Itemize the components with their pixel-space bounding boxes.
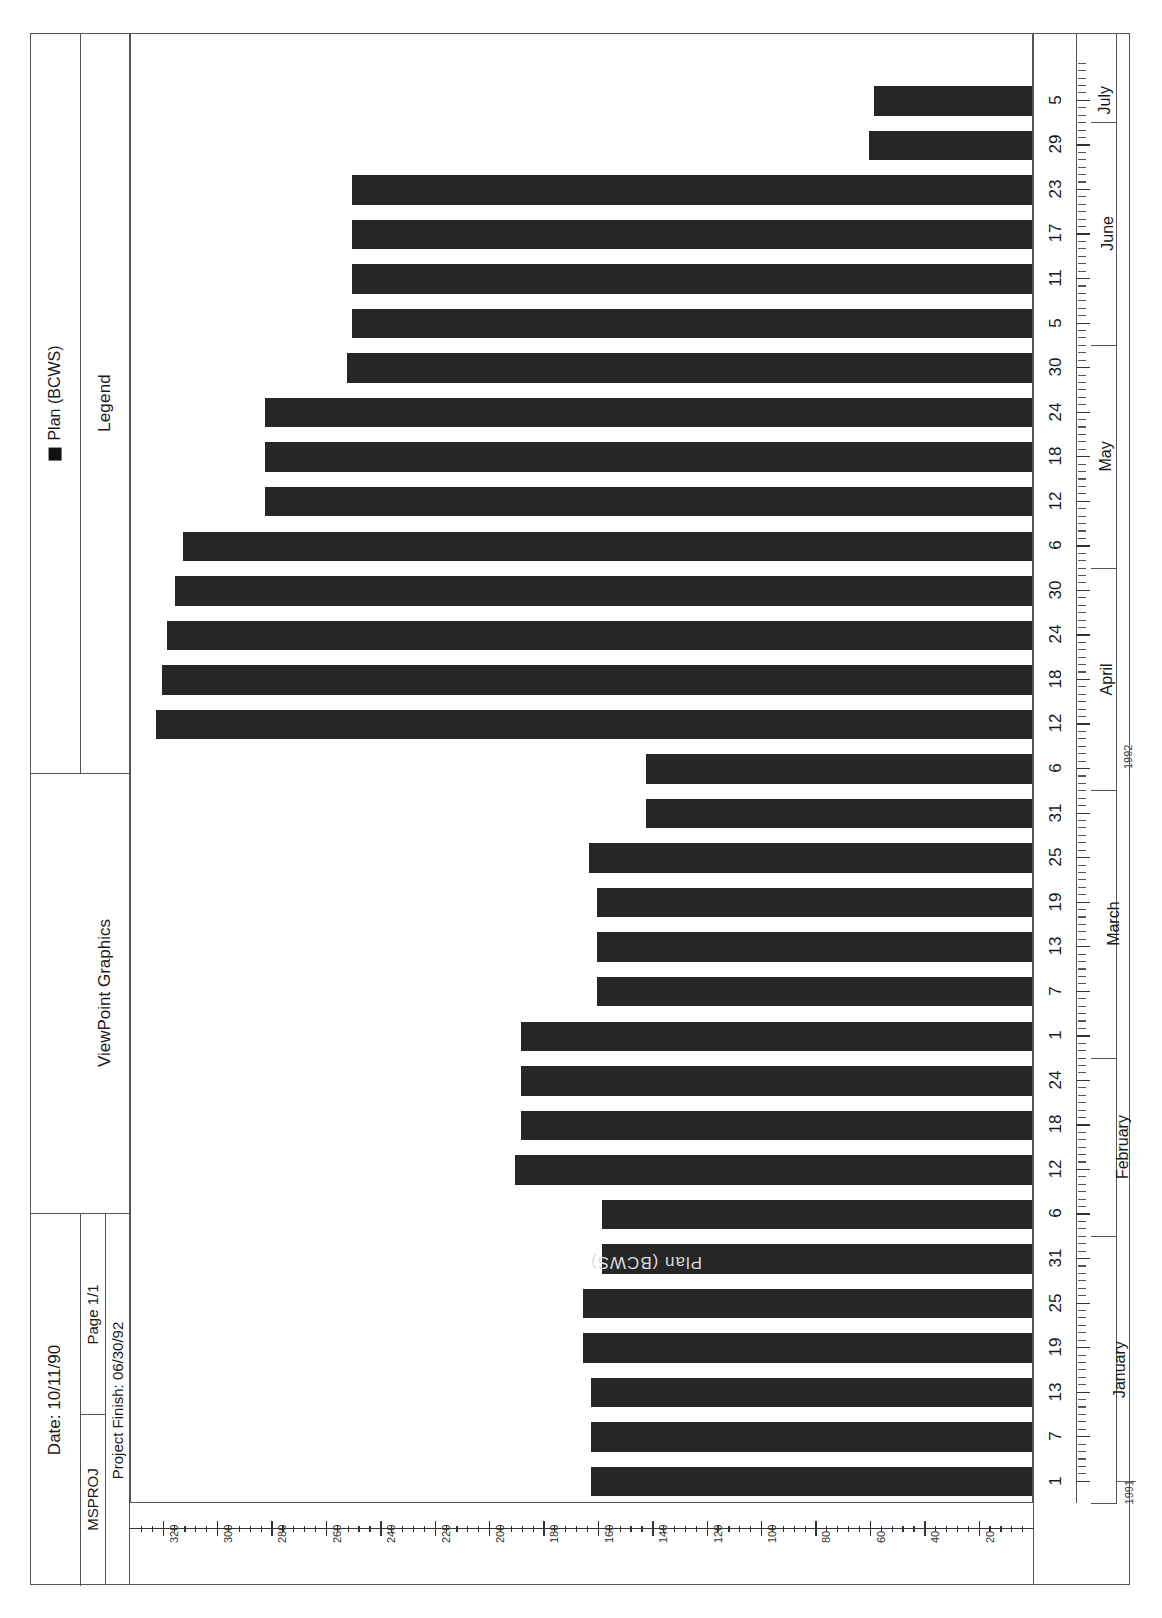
value-tick-minor bbox=[282, 1526, 283, 1532]
category-tick-minor bbox=[1078, 820, 1086, 821]
category-tick-minor bbox=[1078, 894, 1086, 895]
category-tick-minor bbox=[1078, 1110, 1086, 1111]
value-tick-minor bbox=[957, 1526, 958, 1532]
value-tick-major bbox=[435, 1521, 436, 1536]
category-tick-minor bbox=[1078, 1072, 1086, 1073]
category-tick bbox=[1077, 1080, 1090, 1081]
value-tick-minor bbox=[728, 1526, 729, 1532]
category-month-label: March bbox=[1091, 790, 1117, 1057]
bar-plan-bcws bbox=[167, 621, 1032, 650]
axis-corner-box bbox=[1033, 1503, 1130, 1585]
page-number-text: Page 1/1 bbox=[84, 1284, 101, 1344]
category-tick-minor bbox=[1078, 1243, 1086, 1244]
value-tick-minor bbox=[522, 1526, 523, 1532]
category-tick-minor bbox=[1078, 1317, 1086, 1318]
value-axis: 3203002802602402202001801601401201008060… bbox=[130, 1503, 1033, 1585]
category-tick-minor bbox=[1078, 582, 1086, 583]
value-tick-minor bbox=[456, 1526, 457, 1532]
category-tick-minor bbox=[1078, 1273, 1086, 1274]
category-day-label: 1 bbox=[1034, 1470, 1078, 1492]
legend-item-plan-bcws[interactable]: Plan (BCWS) bbox=[46, 345, 64, 460]
category-tick-minor bbox=[1078, 887, 1086, 888]
value-tick-minor bbox=[1022, 1526, 1023, 1532]
category-tick-minor bbox=[1078, 181, 1086, 182]
category-tick-minor bbox=[1078, 1191, 1086, 1192]
category-tick-minor bbox=[1078, 1310, 1086, 1311]
value-tick-minor bbox=[565, 1526, 566, 1532]
category-tick bbox=[1077, 412, 1090, 413]
value-tick-minor bbox=[152, 1526, 153, 1532]
bar-plan-bcws bbox=[347, 353, 1032, 382]
category-tick-minor bbox=[1078, 1087, 1086, 1088]
bar-plan-bcws bbox=[583, 1333, 1032, 1362]
product-title: ViewPoint Graphics bbox=[80, 773, 130, 1214]
value-tick-minor bbox=[935, 1526, 936, 1532]
category-tick-minor bbox=[1078, 478, 1086, 479]
category-day-label: 25 bbox=[1034, 1292, 1078, 1314]
value-tick-minor bbox=[402, 1526, 403, 1532]
category-tick-minor bbox=[1078, 775, 1086, 776]
value-tick-minor bbox=[805, 1526, 806, 1532]
project-finish-cell: Project Finish: 06/30/92 bbox=[105, 1213, 130, 1586]
year-separator bbox=[1117, 1481, 1136, 1482]
value-tick-major bbox=[598, 1521, 599, 1536]
legend-panel: Plan (BCWS) Legend bbox=[30, 33, 129, 774]
category-tick-minor bbox=[1078, 1451, 1086, 1452]
value-tick-minor bbox=[250, 1526, 251, 1532]
value-tick-minor bbox=[369, 1526, 370, 1532]
value-tick-minor bbox=[554, 1526, 555, 1532]
category-tick-minor bbox=[1078, 397, 1086, 398]
category-tick-minor bbox=[1078, 1466, 1086, 1467]
category-tick-minor bbox=[1078, 553, 1086, 554]
category-tick-minor bbox=[1078, 1236, 1086, 1237]
category-tick-minor bbox=[1078, 174, 1086, 175]
category-tick-minor bbox=[1078, 627, 1086, 628]
category-day-label: 30 bbox=[1034, 579, 1078, 601]
category-tick-minor bbox=[1078, 1184, 1086, 1185]
category-day-label: 5 bbox=[1034, 89, 1078, 111]
legend-swatch-icon bbox=[49, 448, 62, 461]
category-tick-minor bbox=[1078, 167, 1086, 168]
category-tick-minor bbox=[1078, 1295, 1086, 1296]
category-tick-minor bbox=[1078, 337, 1086, 338]
bar-plan-bcws bbox=[265, 398, 1032, 427]
chart-region: 3203002802602402202001801601401201008060… bbox=[130, 33, 1130, 1585]
category-tick-minor bbox=[1078, 404, 1086, 405]
category-tick bbox=[1077, 590, 1090, 591]
category-tick-minor bbox=[1078, 256, 1086, 257]
value-tick-minor bbox=[467, 1526, 468, 1532]
category-day-label: 6 bbox=[1034, 534, 1078, 556]
category-tick bbox=[1077, 946, 1090, 947]
category-tick-minor bbox=[1078, 649, 1086, 650]
value-tick-major bbox=[380, 1521, 381, 1536]
product-title-text: ViewPoint Graphics bbox=[95, 919, 115, 1067]
value-tick-minor bbox=[206, 1526, 207, 1532]
category-tick-minor bbox=[1078, 115, 1086, 116]
category-tick bbox=[1077, 545, 1090, 546]
value-tick-minor bbox=[750, 1526, 751, 1532]
category-tick-minor bbox=[1078, 998, 1086, 999]
category-day-label: 25 bbox=[1034, 846, 1078, 868]
category-day-label: 23 bbox=[1034, 178, 1078, 200]
value-tick-major bbox=[217, 1521, 218, 1536]
bar-plan-bcws bbox=[352, 220, 1032, 249]
value-tick-minor bbox=[1011, 1526, 1012, 1532]
category-day-label: 29 bbox=[1034, 133, 1078, 155]
category-tick-minor bbox=[1078, 263, 1086, 264]
value-tick-major bbox=[543, 1521, 544, 1536]
value-tick-minor bbox=[848, 1526, 849, 1532]
category-tick-minor bbox=[1078, 196, 1086, 197]
category-tick-minor bbox=[1078, 315, 1086, 316]
category-tick-minor bbox=[1078, 805, 1086, 806]
value-tick-major bbox=[761, 1521, 762, 1536]
category-tick-minor bbox=[1078, 709, 1086, 710]
category-tick-minor bbox=[1078, 300, 1086, 301]
value-tick-minor bbox=[739, 1526, 740, 1532]
category-tick-minor bbox=[1078, 850, 1086, 851]
value-tick-minor bbox=[826, 1526, 827, 1532]
category-tick-minor bbox=[1078, 419, 1086, 420]
category-tick-minor bbox=[1078, 523, 1086, 524]
value-tick-minor bbox=[337, 1526, 338, 1532]
value-tick-minor bbox=[511, 1526, 512, 1532]
value-tick-major bbox=[271, 1521, 272, 1536]
